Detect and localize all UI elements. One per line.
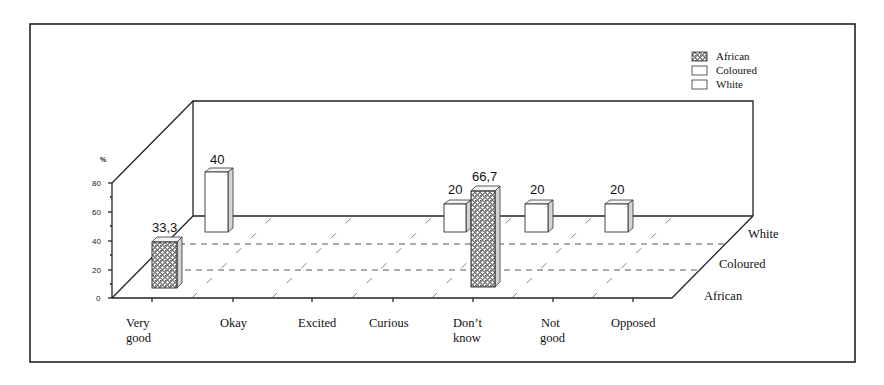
legend-swatch-coloured — [692, 66, 707, 75]
category-label-dont-know-line1: Don’t — [453, 316, 482, 330]
bar-white-dont-know: 20 — [444, 182, 471, 232]
value-label-white-okay: 40 — [210, 152, 224, 167]
bar-white-opposed: 20 — [605, 182, 633, 232]
legend-label-coloured: Coloured — [716, 64, 757, 76]
category-label-okay: Okay — [220, 316, 248, 330]
legend-item-white: White — [692, 78, 743, 90]
category-label-very-good-line2: good — [126, 331, 152, 345]
bar-african-very-good: 33,3 — [152, 220, 182, 288]
y-tick-80: 80 — [92, 179, 101, 188]
legend-label-african: African — [716, 50, 750, 62]
y-tick-40: 40 — [92, 237, 101, 246]
depth-label-coloured: Coloured — [719, 257, 766, 271]
x-axis-labels: Very good Okay Excited Curious Don’t kno… — [126, 316, 656, 345]
legend-label-white: White — [716, 78, 743, 90]
category-label-very-good-line1: Very — [126, 316, 150, 330]
bar-white-okay: 40 — [205, 152, 233, 232]
y-tick-0: 0 — [96, 294, 101, 303]
category-label-not-good-line2: good — [540, 331, 566, 345]
category-label-dont-know-line2: know — [453, 331, 481, 345]
y-tick-20: 20 — [92, 266, 101, 275]
side-wall-top-edge — [112, 101, 193, 183]
y-tick-60: 60 — [92, 208, 101, 217]
legend: African Coloured White — [692, 50, 757, 90]
y-unit-label: % — [100, 156, 107, 163]
value-label-white-dont-know: 20 — [448, 182, 462, 197]
value-label-african-very-good: 33,3 — [152, 220, 177, 235]
chart-canvas: % 0 20 40 60 80 40 20 20 — [0, 0, 884, 385]
depth-label-white: White — [748, 227, 779, 241]
legend-swatch-african — [692, 52, 707, 61]
value-label-white-not-good: 20 — [530, 182, 544, 197]
depth-label-african: African — [704, 289, 743, 303]
legend-swatch-white — [692, 80, 707, 89]
category-label-curious: Curious — [369, 316, 409, 330]
legend-item-coloured: Coloured — [692, 64, 757, 76]
floor-diagonals — [192, 216, 673, 298]
legend-item-african: African — [692, 50, 750, 62]
value-label-african-dont-know: 66,7 — [472, 169, 497, 184]
category-label-opposed: Opposed — [611, 316, 656, 330]
bar-white-not-good: 20 — [525, 182, 553, 232]
value-label-white-opposed: 20 — [610, 182, 624, 197]
depth-axis-labels: White Coloured African — [704, 227, 779, 303]
bar-african-dont-know: 66,7 — [471, 169, 500, 287]
category-label-not-good-line1: Not — [541, 316, 560, 330]
category-label-excited: Excited — [298, 316, 337, 330]
y-axis-labels: % 0 20 40 60 80 — [92, 156, 107, 303]
